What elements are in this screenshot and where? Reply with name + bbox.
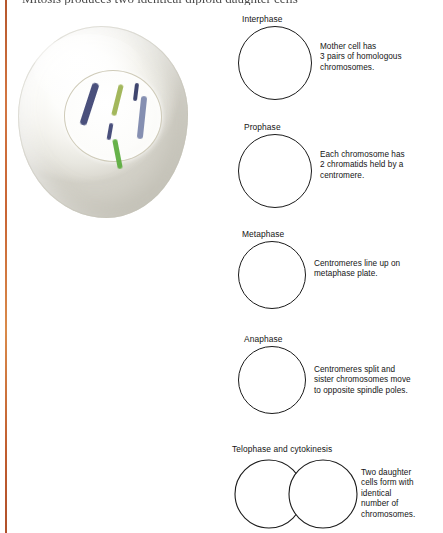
phase-label-interphase: Interphase xyxy=(242,14,283,24)
phase-label-anaphase: Anaphase xyxy=(244,334,283,344)
accent-rule xyxy=(5,0,7,533)
phase-description-prophase: Each chromosome has 2 chromatids held by… xyxy=(320,150,405,181)
phase-description-metaphase: Centromeres line up on metaphase plate. xyxy=(314,259,400,280)
phase-label-telophase: Telophase and cytokinesis xyxy=(232,444,332,454)
daughter-cell-2 xyxy=(289,460,357,528)
daughter-cell-outline xyxy=(234,459,360,531)
cell-circle-anaphase xyxy=(238,346,306,414)
phase-description-interphase: Mother cell has 3 pairs of homologous ch… xyxy=(320,42,402,73)
cell-circle-interphase xyxy=(238,26,312,100)
phase-description-telophase: Two daughter cells form with identical n… xyxy=(361,468,415,520)
cell-circle-metaphase xyxy=(238,241,306,309)
phase-label-prophase: Prophase xyxy=(244,122,281,132)
clipped-heading: Mitosis produces two identical diploid d… xyxy=(22,0,422,5)
phase-label-metaphase: Metaphase xyxy=(242,229,284,239)
phase-description-anaphase: Centromeres split and sister chromosomes… xyxy=(314,365,411,396)
cell-circle-prophase xyxy=(238,134,312,208)
cell-illustration xyxy=(14,22,194,222)
figure-canvas: Mitosis produces two identical diploid d… xyxy=(0,0,443,533)
daughter-cells-telophase xyxy=(234,459,356,527)
